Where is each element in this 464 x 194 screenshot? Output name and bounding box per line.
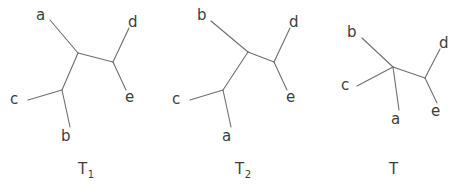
- t1-leaf-label-a: a: [36, 8, 45, 23]
- tree-t2-branches: [190, 21, 290, 127]
- t1-leaf-label-e: e: [125, 90, 134, 105]
- t1-leaf-label-d: d: [128, 15, 138, 30]
- tree-t1-branches: [28, 20, 129, 127]
- t1-leaf-label-c: c: [10, 92, 18, 107]
- tree-caption-t1-base: T: [78, 160, 87, 178]
- t3-branch-b: [362, 38, 393, 67]
- t1-internal-edge-left: [62, 53, 78, 90]
- t3-internal-edge: [393, 67, 425, 78]
- t3-leaf-label-a: a: [391, 112, 400, 127]
- tree-caption-t2: T2: [235, 162, 251, 180]
- tree-caption-t2-subscript: 2: [244, 169, 251, 180]
- t2-leaf-label-e: e: [286, 90, 295, 105]
- t2-internal-edge-right: [248, 52, 274, 62]
- t2-leaf-label-d: d: [289, 15, 299, 30]
- t3-leaf-label-d: d: [439, 36, 449, 51]
- tree-caption-t1-subscript: 1: [87, 169, 94, 180]
- t2-branch-e: [274, 62, 287, 90]
- t2-leaf-label-a: a: [222, 129, 231, 144]
- t3-leaf-label-c: c: [341, 78, 349, 93]
- t1-branch-d: [113, 28, 129, 62]
- t1-internal-edge-right: [78, 53, 113, 62]
- t3-branch-e: [425, 78, 437, 103]
- t3-branch-c: [357, 67, 393, 86]
- t2-leaf-label-b: b: [197, 8, 207, 23]
- t1-branch-a: [50, 20, 78, 53]
- tree-caption-t3-base: T: [389, 160, 398, 178]
- t3-branch-d: [425, 49, 440, 78]
- t1-branch-b: [62, 90, 70, 127]
- t2-branch-a: [223, 90, 231, 127]
- t2-internal-edge-left: [223, 52, 248, 90]
- t1-branch-e: [113, 62, 126, 90]
- t3-leaf-label-b: b: [347, 25, 357, 40]
- t2-leaf-label-c: c: [172, 92, 180, 107]
- t2-branch-d: [274, 28, 290, 62]
- t2-branch-b: [211, 21, 248, 52]
- t3-leaf-label-e: e: [431, 104, 440, 119]
- tree-caption-t2-base: T: [235, 160, 244, 178]
- tree-caption-t1: T1: [78, 162, 94, 180]
- t2-branch-c: [190, 90, 223, 100]
- tree-caption-t3: T: [389, 162, 399, 180]
- phylogenetic-tree-figure: a c b d e b c a d e b c a d e T1 T2 T: [0, 0, 464, 194]
- t3-branch-a: [393, 67, 399, 110]
- t1-leaf-label-b: b: [61, 129, 71, 144]
- t1-branch-c: [28, 90, 62, 100]
- tree-caption-t3-subscript: [398, 169, 399, 180]
- tree-t3-branches: [357, 38, 440, 110]
